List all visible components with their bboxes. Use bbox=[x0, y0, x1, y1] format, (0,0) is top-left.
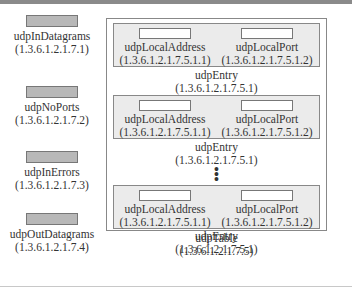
column-oid: (1.3.6.1.2.1.7.5.1.2) bbox=[216, 54, 318, 67]
entry-name: udpEntry bbox=[107, 141, 326, 154]
scalar-udpNoPorts: udpNoPorts (1.3.6.1.2.1.7.2) bbox=[4, 86, 100, 127]
scalar-name: udpOutDatagrams bbox=[4, 228, 100, 241]
field-box bbox=[241, 190, 293, 201]
column-local-port: udpLocalPort (1.3.6.1.2.1.7.5.1.2) bbox=[216, 28, 318, 67]
udp-entry-row: udpLocalAddress (1.3.6.1.2.1.7.5.1.1) ud… bbox=[113, 23, 320, 67]
entry-name: udpEntry bbox=[107, 69, 326, 82]
scalar-udpInErrors: udpInErrors (1.3.6.1.2.1.7.3) bbox=[4, 151, 100, 192]
column-local-address: udpLocalAddress (1.3.6.1.2.1.7.5.1.1) bbox=[114, 190, 216, 229]
field-box bbox=[241, 100, 293, 111]
column-name: udpLocalAddress bbox=[114, 41, 216, 54]
top-border bbox=[0, 0, 352, 4]
column-oid: (1.3.6.1.2.1.7.5.1.2) bbox=[216, 216, 318, 229]
scalar-name: udpNoPorts bbox=[4, 101, 100, 114]
column-oid: (1.3.6.1.2.1.7.5.1.1) bbox=[114, 54, 216, 67]
ellipsis-icon: ••• bbox=[107, 167, 326, 182]
scalar-box bbox=[26, 151, 78, 163]
scalar-oid: (1.3.6.1.2.1.7.2) bbox=[4, 114, 100, 127]
udp-entry-row: udpLocalAddress (1.3.6.1.2.1.7.5.1.1) ud… bbox=[113, 185, 320, 229]
scalar-name: udpInErrors bbox=[4, 166, 100, 179]
table-label: udpTable (1.3.6.1.2.1.7.5) bbox=[106, 232, 327, 258]
column-name: udpLocalAddress bbox=[114, 203, 216, 216]
table-name: udpTable bbox=[106, 232, 327, 245]
column-local-address: udpLocalAddress (1.3.6.1.2.1.7.5.1.1) bbox=[114, 100, 216, 139]
column-name: udpLocalAddress bbox=[114, 113, 216, 126]
field-box bbox=[139, 190, 191, 201]
udp-table: udpLocalAddress (1.3.6.1.2.1.7.5.1.1) ud… bbox=[106, 18, 327, 231]
scalar-name: udpInDatagrams bbox=[4, 30, 100, 43]
scalar-oid: (1.3.6.1.2.1.7.3) bbox=[4, 179, 100, 192]
column-local-port: udpLocalPort (1.3.6.1.2.1.7.5.1.2) bbox=[216, 190, 318, 229]
field-box bbox=[139, 100, 191, 111]
column-name: udpLocalPort bbox=[216, 113, 318, 126]
scalar-udpInDatagrams: udpInDatagrams (1.3.6.1.2.1.7.1) bbox=[4, 15, 100, 56]
bottom-border bbox=[0, 286, 352, 287]
field-box bbox=[139, 28, 191, 39]
column-oid: (1.3.6.1.2.1.7.5.1.1) bbox=[114, 126, 216, 139]
table-oid: (1.3.6.1.2.1.7.5) bbox=[106, 245, 327, 258]
entry-oid: (1.3.6.1.2.1.7.5.1) bbox=[107, 82, 326, 95]
scalar-oid: (1.3.6.1.2.1.7.1) bbox=[4, 43, 100, 56]
column-name: udpLocalPort bbox=[216, 203, 318, 216]
scalar-udpOutDatagrams: udpOutDatagrams (1.3.6.1.2.1.7.4) bbox=[4, 213, 100, 254]
column-oid: (1.3.6.1.2.1.7.5.1.1) bbox=[114, 216, 216, 229]
column-oid: (1.3.6.1.2.1.7.5.1.2) bbox=[216, 126, 318, 139]
column-local-address: udpLocalAddress (1.3.6.1.2.1.7.5.1.1) bbox=[114, 28, 216, 67]
scalar-box bbox=[26, 213, 78, 225]
scalar-oid: (1.3.6.1.2.1.7.4) bbox=[4, 241, 100, 254]
scalar-box bbox=[26, 86, 78, 98]
field-box bbox=[241, 28, 293, 39]
entry-label: udpEntry (1.3.6.1.2.1.7.5.1) bbox=[107, 69, 326, 95]
scalar-box bbox=[26, 15, 78, 27]
column-name: udpLocalPort bbox=[216, 41, 318, 54]
column-local-port: udpLocalPort (1.3.6.1.2.1.7.5.1.2) bbox=[216, 100, 318, 139]
udp-entry-row: udpLocalAddress (1.3.6.1.2.1.7.5.1.1) ud… bbox=[113, 95, 320, 139]
